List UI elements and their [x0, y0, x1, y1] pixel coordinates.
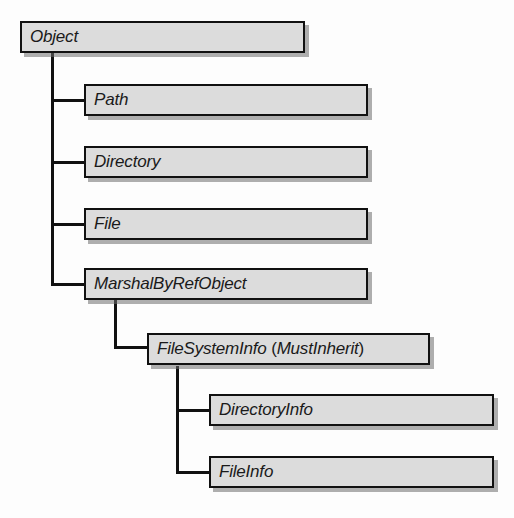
connector-marshal-trunk [114, 300, 117, 348]
node-object: Object [20, 21, 305, 53]
node-marshalbyrefobject: MarshalByRefObject [84, 268, 368, 300]
node-fileinfo: FileInfo [209, 456, 494, 488]
node-path: Path [84, 84, 368, 116]
connector-object-file [51, 223, 85, 226]
node-filesysteminfo-label: FileSystemInfo [157, 339, 267, 359]
node-fileinfo-label: FileInfo [219, 462, 273, 482]
node-filesysteminfo-paren-open: ( [267, 339, 277, 359]
node-directoryinfo: DirectoryInfo [209, 394, 494, 426]
connector-filesysteminfo-fileinfo [176, 471, 210, 474]
node-filesysteminfo: FileSystemInfo (MustInherit) [147, 333, 430, 365]
node-path-label: Path [94, 90, 128, 110]
node-directory-label: Directory [94, 152, 160, 172]
connector-marshal-filesysteminfo [114, 346, 148, 349]
class-hierarchy-diagram: Object Path Directory File MarshalByRefO… [0, 0, 514, 518]
node-file: File [84, 208, 368, 240]
connector-object-marshal [51, 283, 85, 286]
node-directory: Directory [84, 146, 368, 178]
node-directoryinfo-label: DirectoryInfo [219, 400, 313, 420]
connector-object-directory [51, 161, 85, 164]
node-object-label: Object [30, 27, 78, 47]
connector-filesysteminfo-trunk [176, 366, 179, 474]
node-filesysteminfo-paren-close: ) [359, 339, 364, 359]
connector-object-trunk [51, 53, 54, 285]
node-file-label: File [94, 214, 121, 234]
connector-filesysteminfo-directoryinfo [176, 409, 210, 412]
connector-object-path [51, 99, 85, 102]
node-marshalbyrefobject-label: MarshalByRefObject [94, 274, 246, 294]
node-filesysteminfo-modifier: MustInherit [277, 339, 359, 359]
